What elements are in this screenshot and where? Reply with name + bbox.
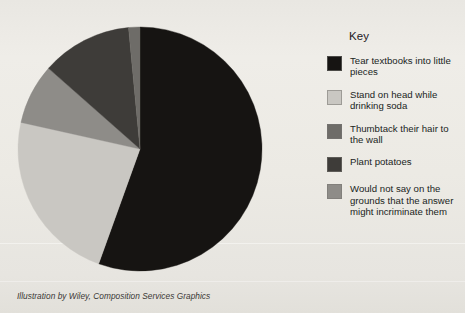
pie-chart: [17, 26, 263, 272]
legend-swatch-dark-grey: [327, 157, 342, 172]
legend-swatch-light-grey: [327, 90, 342, 105]
legend-item-tear-textbooks[interactable]: Tear textbooks into little pieces: [327, 55, 459, 78]
legend-swatch-medium-dark-grey: [327, 124, 342, 139]
legend-swatch-medium-grey: [327, 184, 342, 199]
legend: Key Tear textbooks into little pieces St…: [327, 30, 459, 229]
legend-swatch-black: [327, 56, 342, 71]
legend-label-would-not-say: Would not say on the grounds that the an…: [350, 183, 459, 217]
legend-item-thumbtack-hair[interactable]: Thumbtack their hair to the wall: [327, 123, 459, 146]
illustration-credit-caption: Illustration by Wiley, Composition Servi…: [17, 291, 210, 301]
legend-title: Key: [349, 30, 459, 42]
legend-label-plant-potatoes: Plant potatoes: [350, 156, 412, 167]
legend-label-tear-textbooks: Tear textbooks into little pieces: [350, 55, 459, 78]
legend-label-stand-on-head: Stand on head while drinking soda: [350, 89, 459, 112]
scan-seam-line-secondary: [0, 281, 465, 282]
legend-item-plant-potatoes[interactable]: Plant potatoes: [327, 156, 459, 172]
pie-chart-svg: [17, 26, 263, 272]
legend-item-would-not-say[interactable]: Would not say on the grounds that the an…: [327, 183, 459, 217]
legend-label-thumbtack-hair: Thumbtack their hair to the wall: [350, 123, 459, 146]
pie-slice-group: [18, 27, 262, 271]
legend-item-stand-on-head[interactable]: Stand on head while drinking soda: [327, 89, 459, 112]
